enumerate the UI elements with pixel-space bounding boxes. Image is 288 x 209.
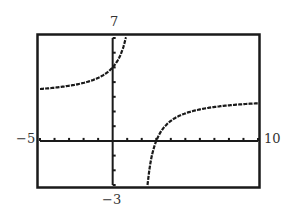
- function-curve: [40, 38, 258, 185]
- graph-plot: [0, 0, 288, 209]
- curve-branch-right: [148, 103, 259, 185]
- viewing-window-frame: [38, 35, 260, 188]
- axes: [40, 38, 258, 185]
